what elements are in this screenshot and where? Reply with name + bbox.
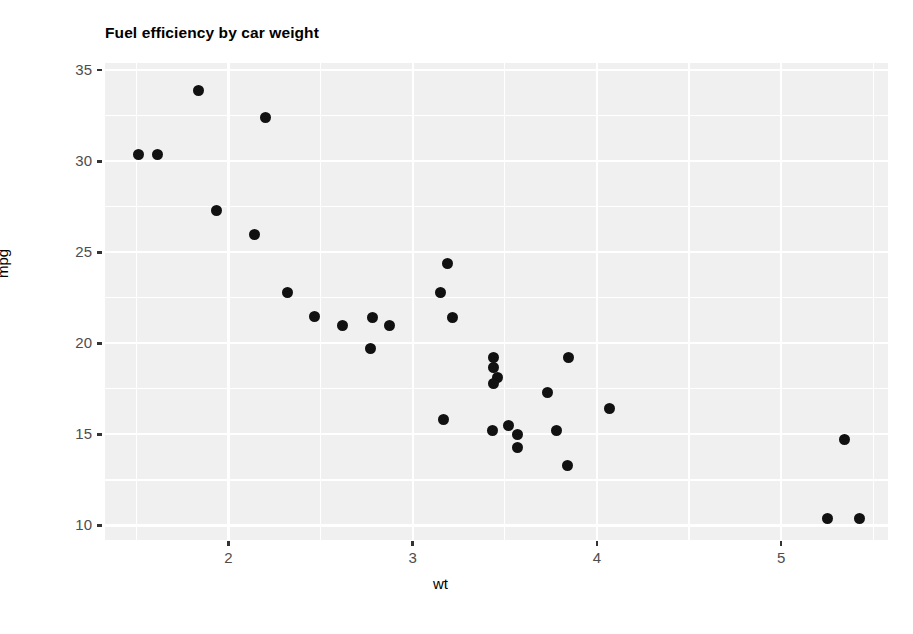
data-point	[512, 429, 523, 440]
gridline-major-horizontal	[105, 160, 888, 162]
data-point	[542, 387, 553, 398]
y-tick-label: 10	[75, 516, 92, 533]
gridline-minor-horizontal	[105, 388, 888, 389]
data-point	[367, 312, 378, 323]
gridline-minor-vertical	[688, 63, 689, 540]
y-tick-mark	[97, 69, 102, 71]
gridline-minor-horizontal	[105, 115, 888, 116]
gridline-major-vertical	[596, 63, 598, 540]
gridline-minor-vertical	[504, 63, 505, 540]
gridline-minor-horizontal	[105, 479, 888, 480]
data-point	[854, 513, 865, 524]
data-point	[260, 112, 271, 123]
data-point	[488, 352, 499, 363]
x-tick-mark	[411, 541, 413, 546]
gridline-major-horizontal	[105, 69, 888, 71]
data-point	[384, 320, 395, 331]
data-point	[211, 205, 222, 216]
chart-screenshot: Fuel efficiency by car weight 1015202530…	[0, 0, 913, 634]
x-axis-title-label: wt	[433, 575, 448, 592]
data-point	[488, 362, 499, 373]
gridline-major-vertical	[227, 63, 229, 540]
gridline-minor-vertical	[320, 63, 321, 540]
x-tick-label: 3	[409, 549, 417, 566]
data-point	[337, 320, 348, 331]
gridline-minor-vertical	[136, 63, 137, 540]
y-tick-label-wrap: 30	[0, 152, 92, 170]
x-tick-label: 2	[224, 549, 232, 566]
data-point	[447, 312, 458, 323]
data-point	[193, 85, 204, 96]
x-tick-label: 5	[777, 549, 785, 566]
x-tick-mark	[780, 541, 782, 546]
data-point	[365, 343, 376, 354]
data-point	[488, 378, 499, 389]
x-tick-label-wrap: 4	[567, 549, 627, 567]
x-tick-mark	[596, 541, 598, 546]
y-tick-mark	[97, 342, 102, 344]
x-axis-title: wt	[0, 575, 913, 592]
data-point	[309, 311, 320, 322]
data-point	[152, 149, 163, 160]
gridline-minor-vertical	[873, 63, 874, 540]
data-point	[503, 420, 514, 431]
data-point	[604, 403, 615, 414]
y-tick-label-wrap: 35	[0, 61, 92, 79]
y-tick-label: 15	[75, 425, 92, 442]
y-tick-label: 35	[75, 61, 92, 78]
x-tick-label-wrap: 3	[383, 549, 443, 567]
data-point	[512, 442, 523, 453]
gridline-major-horizontal	[105, 342, 888, 344]
gridline-major-horizontal	[105, 524, 888, 526]
data-point	[442, 258, 453, 269]
data-point	[822, 513, 833, 524]
y-tick-label: 25	[75, 243, 92, 260]
data-point	[563, 352, 574, 363]
y-tick-label-wrap: 10	[0, 516, 92, 534]
y-tick-label-wrap: 15	[0, 425, 92, 443]
y-tick-label-wrap: 20	[0, 334, 92, 352]
y-tick-label-wrap: 25	[0, 243, 92, 261]
gridline-major-horizontal	[105, 251, 888, 253]
data-point	[438, 414, 449, 425]
data-point	[282, 287, 293, 298]
x-tick-label-wrap: 5	[751, 549, 811, 567]
plot-panel	[105, 63, 888, 540]
x-tick-label-wrap: 2	[198, 549, 258, 567]
data-point	[839, 434, 850, 445]
y-tick-mark	[97, 251, 102, 253]
y-tick-label: 30	[75, 152, 92, 169]
y-tick-mark	[97, 160, 102, 162]
data-point	[133, 149, 144, 160]
data-point	[249, 229, 260, 240]
data-point	[435, 287, 446, 298]
gridline-minor-horizontal	[105, 206, 888, 207]
x-tick-label: 4	[593, 549, 601, 566]
x-tick-mark	[227, 541, 229, 546]
gridline-major-vertical	[780, 63, 782, 540]
y-tick-label: 20	[75, 334, 92, 351]
y-axis-title: mpg	[0, 249, 11, 278]
y-tick-mark	[97, 524, 102, 526]
page-title: Fuel efficiency by car weight	[105, 24, 319, 42]
data-point	[562, 460, 573, 471]
gridline-minor-horizontal	[105, 297, 888, 298]
gridline-major-vertical	[412, 63, 414, 540]
y-tick-mark	[97, 433, 102, 435]
